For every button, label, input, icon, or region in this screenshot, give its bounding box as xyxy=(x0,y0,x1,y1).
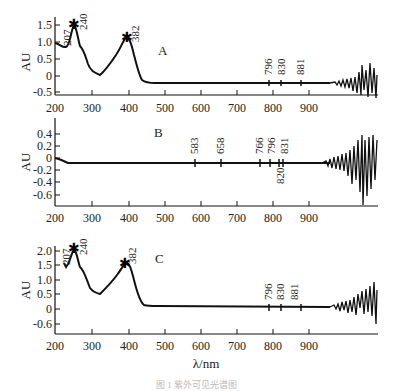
peak-label: 820 xyxy=(274,167,286,184)
peak-label: 658 xyxy=(214,137,226,154)
svg-text:800: 800 xyxy=(264,211,282,225)
svg-text:0.5: 0.5 xyxy=(37,287,52,301)
svg-text:200: 200 xyxy=(46,339,64,353)
svg-text:400: 400 xyxy=(120,211,138,225)
peak-label: 766 xyxy=(253,137,265,154)
svg-text:800: 800 xyxy=(264,339,282,353)
peak-label: 796 xyxy=(262,58,274,75)
svg-text:1.5: 1.5 xyxy=(37,18,52,32)
svg-text:1.5: 1.5 xyxy=(37,258,52,272)
svg-text:200: 200 xyxy=(46,101,64,115)
panel-a: AU 1.5 1.0 0.5 0 -0.5 200 300 400 500 60… xyxy=(18,13,378,115)
peak-label: 382 xyxy=(126,248,138,265)
peak-label: 382 xyxy=(129,26,141,43)
svg-text:900: 900 xyxy=(300,339,318,353)
svg-text:600: 600 xyxy=(192,101,210,115)
svg-text:-0.5: -0.5 xyxy=(33,85,52,99)
svg-text:400: 400 xyxy=(120,101,138,115)
svg-text:400: 400 xyxy=(120,339,138,353)
peak-label: 796 xyxy=(265,137,277,154)
peak-label: 881 xyxy=(288,284,300,301)
peak-label: 207 xyxy=(61,29,73,46)
svg-text:300: 300 xyxy=(83,101,101,115)
peak-label: 881 xyxy=(294,59,306,76)
svg-text:1.0: 1.0 xyxy=(37,273,52,287)
peak-label: 240 xyxy=(77,238,89,255)
panel-b: AU 0.4 0.2 0 -0.2 -0.4 -0.6 200 300 400 … xyxy=(18,118,378,225)
panel-a-label: A xyxy=(158,43,168,58)
svg-text:1.0: 1.0 xyxy=(37,35,52,49)
svg-text:500: 500 xyxy=(156,101,174,115)
peak-label: 583 xyxy=(188,137,200,154)
svg-text:800: 800 xyxy=(264,101,282,115)
x-axis-label: λ/nm xyxy=(193,356,220,371)
peak-label: 240 xyxy=(77,13,89,30)
svg-text:-0.6: -0.6 xyxy=(33,317,52,331)
svg-text:500: 500 xyxy=(156,339,174,353)
svg-text:0: 0 xyxy=(46,69,52,83)
peak-label: 830 xyxy=(275,58,287,75)
panel-b-label: B xyxy=(154,125,163,140)
svg-text:200: 200 xyxy=(46,211,64,225)
panel-a-ylabel: AU xyxy=(18,52,33,71)
panel-c-ylabel: AU xyxy=(18,280,33,299)
svg-text:-0.6: -0.6 xyxy=(33,188,52,202)
panel-c: AU 2.0 1.5 1.0 0.5 0 -0.6 200 300 400 50… xyxy=(18,238,378,371)
peak-label: 796 xyxy=(262,283,274,300)
svg-text:700: 700 xyxy=(228,211,246,225)
figure-caption: 图 1 紫外可见光谱图 xyxy=(0,378,393,391)
svg-text:600: 600 xyxy=(192,339,210,353)
peak-label: 831 xyxy=(278,138,290,155)
svg-text:700: 700 xyxy=(228,101,246,115)
svg-text:500: 500 xyxy=(156,211,174,225)
svg-text:-0.4: -0.4 xyxy=(33,175,52,189)
svg-text:2.0: 2.0 xyxy=(37,244,52,258)
svg-text:700: 700 xyxy=(228,339,246,353)
svg-text:0.5: 0.5 xyxy=(37,52,52,66)
svg-text:900: 900 xyxy=(300,211,318,225)
svg-text:300: 300 xyxy=(83,339,101,353)
svg-text:900: 900 xyxy=(300,101,318,115)
peak-label: 207 xyxy=(60,248,72,265)
svg-text:600: 600 xyxy=(192,211,210,225)
peak-label: 830 xyxy=(274,283,286,300)
svg-text:0: 0 xyxy=(46,302,52,316)
panel-c-label: C xyxy=(155,251,164,266)
svg-text:300: 300 xyxy=(83,211,101,225)
panel-b-ylabel: AU xyxy=(18,152,33,171)
